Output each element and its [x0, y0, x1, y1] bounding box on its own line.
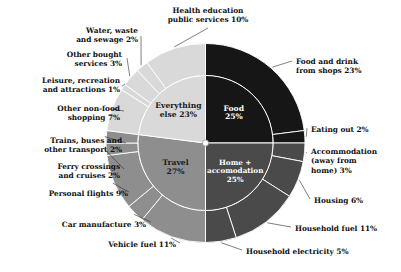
label-other-non-food-shopping: Other non-food shopping 7% — [4, 104, 120, 123]
pie-chart-figure: Food25%Home +accomodation25%Travel27%Eve… — [0, 0, 401, 272]
leader-line-eating-out — [306, 128, 307, 137]
label-accommodation-away-from-home: Accommodation (away from home) 3% — [311, 147, 377, 175]
label-trains-buses-and-other-transport: Trains, buses and other transport 2% — [0, 136, 122, 155]
leader-line-housing — [299, 180, 310, 199]
leader-line-household-fuel — [267, 223, 291, 227]
label-health-education-public-services: Health education public services 10% — [152, 6, 264, 25]
label-household-electricity: Household electricity 5% — [246, 247, 348, 256]
inner-label-food: Food25% — [224, 104, 245, 122]
leader-line-other-bought-services — [127, 58, 130, 76]
label-housing: Housing 6% — [314, 196, 363, 205]
label-other-bought-services: Other bought services 3% — [12, 50, 122, 69]
label-car-manufacture: Car manufacture 3% — [6, 220, 146, 229]
label-leisure-recreation-and-attractions: Leisure, recreation and attractions 1% — [0, 76, 120, 95]
label-eating-out: Eating out 2% — [311, 125, 369, 134]
label-water-waste-and-sewage: Water, waste and sewage 2% — [28, 26, 138, 45]
leader-line-household-electricity — [221, 243, 242, 250]
label-household-fuel: Household fuel 11% — [295, 224, 377, 233]
inner-label-everything-else: Everythingelse 23% — [155, 101, 202, 119]
center-hub-dot — [202, 140, 208, 146]
label-personal-flights: Personal flights 9% — [0, 189, 128, 198]
label-vehicle-fuel: Vehicle fuel 11% — [36, 240, 176, 249]
label-ferry-crossings-and-cruises: Ferry crossings and cruises 2% — [0, 162, 120, 181]
label-food-and-drink-from-shops: Food and drink from shops 23% — [296, 57, 361, 76]
leader-line-food-and-drink-from-shops — [272, 61, 292, 67]
